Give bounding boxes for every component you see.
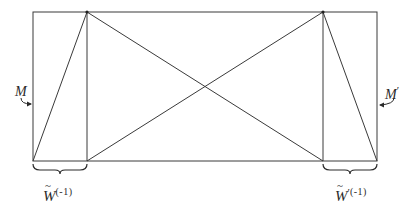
label-m-prime-mark: ′ [397, 84, 399, 96]
label-m-symbol: M [15, 84, 27, 99]
left-top-vertex-dot [85, 10, 88, 13]
right-top-vertex-dot [321, 10, 324, 13]
label-w-prime-tilde-inverse: ~W′(-1) [335, 186, 367, 205]
label-w-superscript: (-1) [56, 186, 73, 197]
label-w-prime-superscript: (-1) [350, 186, 367, 197]
right-arrowhead-icon [379, 103, 384, 108]
tilde-accent: ~ [45, 179, 51, 191]
left-brace-icon [33, 164, 87, 174]
label-m-prime: M′ [385, 84, 399, 103]
label-m-prime-symbol: M [385, 87, 397, 102]
label-w-tilde-inverse: ~W(-1) [43, 186, 73, 205]
tilde-accent-prime: ~ [337, 179, 343, 191]
right-brace-icon [323, 164, 377, 174]
right-slant-line [323, 12, 377, 161]
left-arrowhead-icon [27, 102, 32, 107]
label-m: M [15, 84, 27, 100]
geometric-diagram [0, 0, 418, 215]
left-slant-line [33, 12, 87, 161]
